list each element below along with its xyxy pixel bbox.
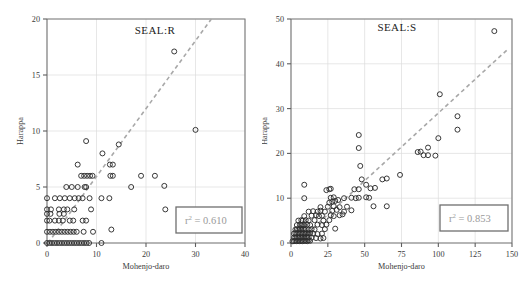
data-point <box>91 229 96 234</box>
data-point <box>81 229 86 234</box>
stat-label: r2 = 0.610 <box>185 214 227 226</box>
y-tick-label: 20 <box>32 15 40 24</box>
panel-title: SEAL:R <box>135 24 176 36</box>
x-tick-label: 75 <box>397 250 405 259</box>
data-point <box>67 196 72 201</box>
data-point <box>426 145 431 150</box>
data-point <box>107 196 112 201</box>
figure-container: 01020304005101520Mohenjo-daroHarappaSEAL… <box>0 0 524 288</box>
chart-panel-seal-r: 01020304005101520Mohenjo-daroHarappaSEAL… <box>0 0 262 288</box>
scatter-plot-seal-r: 01020304005101520Mohenjo-daroHarappaSEAL… <box>0 0 262 288</box>
data-point <box>367 195 372 200</box>
data-point <box>57 196 62 201</box>
y-tick-label: 40 <box>276 60 284 69</box>
x-tick-label: 10 <box>92 250 100 259</box>
data-point <box>84 139 89 144</box>
data-point <box>89 207 94 212</box>
data-point <box>162 183 167 188</box>
data-point <box>71 218 76 223</box>
stat-value: = 0.610 <box>192 215 227 226</box>
y-axis-title: Harappa <box>16 117 25 145</box>
panel-title: SEAL:S <box>377 21 416 33</box>
data-point <box>84 218 89 223</box>
chart-panel-seal-s: 025507510012515001020304050Mohenjo-daroH… <box>262 0 524 288</box>
data-point <box>349 208 354 213</box>
data-point <box>75 162 80 167</box>
y-tick-label: 30 <box>276 105 284 114</box>
scatter-plot-seal-s: 025507510012515001020304050Mohenjo-daroH… <box>262 0 524 288</box>
data-point <box>87 196 92 201</box>
data-point <box>333 226 338 231</box>
y-tick-label: 15 <box>32 71 40 80</box>
data-point <box>455 127 460 132</box>
data-point <box>172 49 177 54</box>
x-tick-label: 20 <box>142 250 150 259</box>
data-point <box>163 207 168 212</box>
y-tick-label: 50 <box>276 15 284 24</box>
data-point <box>371 204 376 209</box>
x-tick-label: 100 <box>432 250 444 259</box>
y-axis-title: Harappa <box>262 117 269 145</box>
data-point <box>358 163 363 168</box>
y-tick-label: 10 <box>276 194 284 203</box>
x-tick-label: 0 <box>45 250 49 259</box>
x-tick-label: 50 <box>361 250 369 259</box>
x-axis-title: Mohenjo-daro <box>378 262 425 271</box>
x-tick-label: 0 <box>289 250 293 259</box>
data-point <box>433 153 438 158</box>
data-point <box>455 114 460 119</box>
y-tick-label: 20 <box>276 149 284 158</box>
data-point <box>99 196 104 201</box>
data-point <box>100 151 105 156</box>
x-tick-label: 150 <box>506 250 518 259</box>
stat-label: r2 = 0.853 <box>449 212 491 224</box>
data-point <box>62 196 67 201</box>
data-point <box>331 214 336 219</box>
data-point <box>302 182 307 187</box>
data-point <box>492 29 497 34</box>
y-tick-label: 5 <box>36 183 40 192</box>
x-axis-title: Mohenjo-daro <box>123 262 170 271</box>
data-point <box>356 133 361 138</box>
data-point <box>318 205 323 210</box>
x-tick-label: 25 <box>324 250 332 259</box>
data-point <box>312 218 317 223</box>
data-point <box>359 177 364 182</box>
data-point <box>109 227 114 232</box>
data-point <box>321 218 326 223</box>
y-tick-label: 0 <box>36 239 40 248</box>
data-point <box>356 146 361 151</box>
data-point <box>344 204 349 209</box>
data-point <box>384 204 389 209</box>
x-tick-label: 125 <box>469 250 481 259</box>
x-tick-label: 40 <box>241 250 249 259</box>
y-tick-label: 10 <box>32 127 40 136</box>
data-point <box>65 207 70 212</box>
data-point <box>139 173 144 178</box>
data-point <box>152 173 157 178</box>
stat-value: = 0.853 <box>456 213 491 224</box>
x-tick-label: 30 <box>191 250 199 259</box>
data-point <box>52 196 57 201</box>
y-tick-label: 0 <box>280 239 284 248</box>
data-point <box>116 142 121 147</box>
